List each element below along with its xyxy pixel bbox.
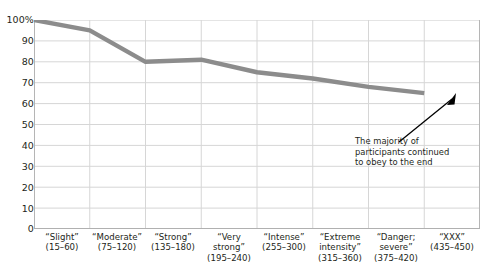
y-tick-80: 80 (0, 57, 34, 67)
y-tick-100: 100% (0, 15, 34, 25)
y-tick-10: 10 (0, 204, 34, 214)
y-tick-90: 90 (0, 36, 34, 46)
annotation-line-2: participants continued (355, 147, 451, 158)
x-tick-xxx: “XXX” (435–450) (398, 232, 503, 253)
annotation-line-3: to obey to the end (355, 157, 451, 168)
x-axis-labels: “Slight” (15–60) “Moderate” (75–120) “St… (34, 232, 480, 265)
y-tick-30: 30 (0, 162, 34, 172)
y-tick-50: 50 (0, 120, 34, 130)
y-tick-70: 70 (0, 78, 34, 88)
annotation-line-1: The majority of (355, 136, 451, 147)
y-tick-40: 40 (0, 141, 34, 151)
obedience-line-chart: 100% 90 80 70 60 50 40 30 20 10 0 (0, 0, 503, 265)
obedience-series-line (34, 20, 424, 93)
y-tick-20: 20 (0, 183, 34, 193)
y-tick-60: 60 (0, 99, 34, 109)
annotation-text: The majority of participants continued t… (355, 136, 451, 168)
y-axis-ticks: 100% 90 80 70 60 50 40 30 20 10 0 (0, 0, 34, 265)
